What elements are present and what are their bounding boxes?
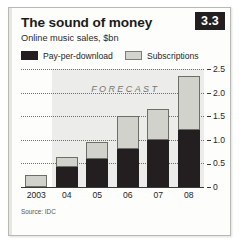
- chart-source: Source: IDC: [21, 208, 56, 215]
- bar-segment-subscriptions: [56, 157, 78, 167]
- bar-05: [86, 142, 108, 187]
- y-tick-text: 1.0: [213, 135, 225, 145]
- legend-item-subscriptions: Subscriptions: [125, 49, 199, 62]
- gridline-0: [21, 187, 204, 188]
- y-tick-mark: [207, 187, 211, 188]
- bar-segment-pay-per-download: [147, 140, 169, 187]
- bar-06: [117, 116, 139, 187]
- bar-04: [56, 157, 78, 187]
- chart-figure: 3.3 The sound of money Online music sale…: [8, 7, 231, 236]
- x-tick-label-05: 05: [82, 190, 113, 200]
- chart-title: The sound of money: [21, 15, 152, 30]
- y-tick-label-0-5: 0.5: [207, 158, 225, 168]
- chart-plot-area: FORECAST: [21, 69, 204, 187]
- bar-2003: [25, 175, 47, 187]
- legend-swatch-pay-per-download: [21, 51, 38, 60]
- forecast-annotation: FORECAST: [91, 84, 159, 94]
- y-tick-mark: [207, 116, 211, 117]
- y-tick-text: 1.5: [213, 111, 225, 121]
- chart-legend: Pay-per-download Subscriptions: [21, 49, 221, 62]
- y-tick-mark: [207, 164, 211, 165]
- x-axis-labels: 20030405060708: [21, 190, 204, 202]
- y-tick-text: 2.5: [213, 64, 225, 74]
- figure-left-stripe: [9, 8, 12, 235]
- y-tick-mark: [207, 93, 211, 94]
- y-tick-label-2-0: 2.0: [207, 88, 225, 98]
- bar-segment-subscriptions: [147, 109, 169, 140]
- bar-segment-pay-per-download: [178, 130, 200, 187]
- bar-segment-pay-per-download: [86, 159, 108, 187]
- y-tick-mark: [207, 69, 211, 70]
- y-tick-text: 2.0: [213, 88, 225, 98]
- y-tick-label-1-0: 1.0: [207, 135, 225, 145]
- bar-segment-subscriptions: [86, 142, 108, 159]
- chart-plot-inner: FORECAST: [21, 69, 204, 187]
- y-tick-label-0: 0: [207, 182, 218, 192]
- bar-08: [178, 76, 200, 187]
- x-tick-label-04: 04: [52, 190, 83, 200]
- y-tick-label-2-5: 2.5: [207, 64, 225, 74]
- gridline-2-5: [21, 69, 204, 70]
- bar-segment-subscriptions: [25, 175, 47, 187]
- gridline-1: [21, 140, 204, 141]
- bar-segment-subscriptions: [117, 116, 139, 149]
- x-tick-label-2003: 2003: [21, 190, 52, 200]
- chart-subtitle: Online music sales, $bn: [21, 33, 119, 43]
- legend-item-pay-per-download: Pay-per-download: [21, 49, 113, 62]
- bar-segment-subscriptions: [178, 76, 200, 130]
- y-tick-text: 0.5: [213, 158, 225, 168]
- legend-label-pay-per-download: Pay-per-download: [43, 51, 113, 61]
- bar-07: [147, 109, 169, 187]
- bar-segment-pay-per-download: [56, 167, 78, 187]
- x-tick-label-08: 08: [174, 190, 205, 200]
- gridline-0-5: [21, 163, 204, 164]
- y-tick-text: 0: [213, 182, 218, 192]
- y-tick-mark: [207, 140, 211, 141]
- x-tick-label-07: 07: [143, 190, 174, 200]
- figure-number-badge: 3.3: [195, 12, 225, 30]
- gridline-1-5: [21, 116, 204, 117]
- x-tick-label-06: 06: [113, 190, 144, 200]
- legend-swatch-subscriptions: [125, 51, 142, 60]
- legend-label-subscriptions: Subscriptions: [147, 51, 199, 61]
- bar-segment-pay-per-download: [117, 149, 139, 187]
- y-tick-label-1-5: 1.5: [207, 111, 225, 121]
